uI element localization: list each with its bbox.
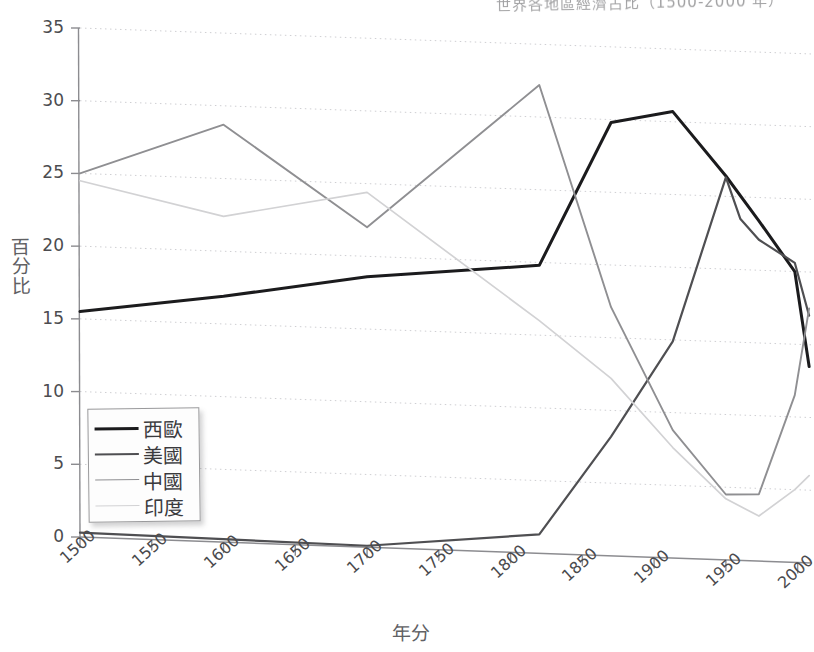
y-tick-label: 5 [20, 453, 64, 473]
legend-item: 美國 [93, 440, 197, 467]
y-tick-label: 25 [20, 162, 64, 182]
x-axis-label: 年分 [356, 617, 466, 645]
y-tick-label: 30 [20, 90, 64, 110]
y-tick-label: 35 [20, 17, 64, 37]
legend-swatch [95, 505, 139, 507]
legend-swatch [95, 427, 139, 431]
legend-label: 印度 [143, 492, 183, 521]
legend-item: 印度 [93, 492, 197, 519]
legend-label: 西歐 [142, 414, 182, 443]
legend-item: 西歐 [92, 414, 196, 441]
y-axis-label: 百分比 [7, 238, 34, 297]
chart-legend: 西歐美國中國印度 [87, 407, 200, 522]
series-line [80, 112, 809, 367]
y-tick-label: 10 [20, 381, 64, 401]
legend-label: 中國 [143, 466, 183, 495]
chart-plot-area [0, 0, 814, 652]
legend-swatch [95, 479, 139, 481]
legend-item: 中國 [93, 466, 197, 493]
legend-label: 美國 [143, 440, 183, 469]
legend-swatch [95, 453, 139, 456]
y-tick-label: 0 [20, 526, 64, 546]
y-tick-label: 15 [20, 308, 64, 328]
